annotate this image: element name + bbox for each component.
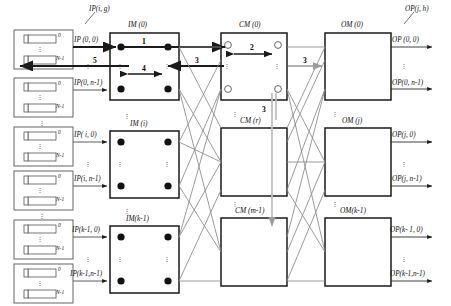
dots-out-b: ... bbox=[403, 160, 405, 167]
step-number-2: 2 bbox=[250, 44, 254, 52]
input-link-label-3: IP(i, n-1) bbox=[74, 176, 101, 183]
module-label-cm-0: CM (0) bbox=[239, 21, 261, 28]
dots-link-a: ... bbox=[87, 62, 89, 69]
output-link-label-5: OP(k-1,n-1) bbox=[390, 271, 425, 278]
callout-input-pointer: IP(i, g) bbox=[89, 6, 110, 13]
output-module-group bbox=[325, 33, 391, 286]
dots-ip-queue-c: ... bbox=[39, 142, 41, 149]
ip-box-label-n-e: N-1 bbox=[56, 246, 64, 251]
output-link-label-2: OP(j, 0) bbox=[392, 132, 416, 139]
ip-box-label-0-e: 0 bbox=[58, 223, 61, 228]
module-label-om-j: OM (j) bbox=[342, 117, 362, 124]
dots-imi-left: ... bbox=[119, 160, 121, 167]
module-label-cm-m1: CM (m-1) bbox=[235, 207, 264, 214]
dots-imk-left: ... bbox=[119, 255, 121, 262]
input-link-label-0: IP (0, 0) bbox=[74, 37, 98, 44]
module-label-om-0: OM (0) bbox=[341, 21, 363, 28]
step-number-3c: 3 bbox=[262, 106, 266, 114]
im-cm-interconnect bbox=[179, 47, 221, 281]
ip-box-label-n-b: N-1 bbox=[56, 104, 64, 109]
dots-cm-stage-2: ... bbox=[234, 200, 236, 207]
output-link-label-1: OP(0, n-1) bbox=[392, 80, 423, 87]
dots-imk-right: ... bbox=[166, 255, 168, 262]
dots-link-b: ... bbox=[87, 160, 89, 167]
ip-box-label-n-c: N-1 bbox=[56, 153, 64, 158]
dots-imi-right: ... bbox=[166, 160, 168, 167]
step-number-3a: 3 bbox=[195, 57, 199, 65]
dots-cm0-right: ... bbox=[276, 62, 278, 69]
dots-om-stage-2: ... bbox=[334, 200, 336, 207]
input-link-label-5: IP(k-1,n-1) bbox=[70, 271, 102, 278]
input-link-label-4: IP(k-1, 0) bbox=[72, 227, 100, 234]
dots-ip-queue-e: ... bbox=[39, 235, 41, 242]
dots-out-a: ... bbox=[403, 62, 405, 69]
ip-box-label-0-d: 0 bbox=[58, 174, 61, 179]
ip-box-label-n-d: N-1 bbox=[56, 197, 64, 202]
dots-cm0-left: ... bbox=[226, 62, 228, 69]
dots-out-c: ... bbox=[403, 255, 405, 262]
clos-network-diagram: 0 N-1 0 N-1 0 N-1 0 N-1 0 N-1 0 N-1 IM (… bbox=[0, 0, 451, 306]
ip-box-label-n-a: N-1 bbox=[56, 56, 64, 61]
ip-box-label-0-b: 0 bbox=[58, 81, 61, 86]
module-label-im-i: IM (i) bbox=[130, 120, 147, 127]
ip-box-label-n-f: N-1 bbox=[56, 290, 64, 295]
input-links bbox=[73, 90, 107, 281]
dots-im-stage-2: ... bbox=[126, 207, 128, 214]
input-link-label-1: IP(0, n-1) bbox=[74, 80, 102, 87]
dots-ip-group-2: ... bbox=[41, 212, 43, 219]
module-label-im-0: IM (0) bbox=[128, 21, 147, 28]
dots-cm-stage-1: ... bbox=[234, 110, 236, 117]
cm-om-interconnect bbox=[287, 47, 325, 281]
dots-om-stage-1: ... bbox=[334, 110, 336, 117]
ip-box-label-0-c: 0 bbox=[58, 130, 61, 135]
input-port-group bbox=[14, 30, 73, 303]
module-label-om-k1: OM(k-1) bbox=[340, 207, 366, 214]
ip-box-label-0-f: 0 bbox=[58, 267, 61, 272]
dots-ip-group-1: ... bbox=[41, 119, 43, 126]
input-port-queues bbox=[24, 35, 56, 298]
module-label-cm-r: CM (r) bbox=[240, 117, 261, 124]
dots-ip-queue-d: ... bbox=[39, 186, 41, 193]
step-number-4: 4 bbox=[142, 65, 146, 73]
dots-im0-right: ... bbox=[166, 62, 168, 69]
input-link-label-2: IP( i, 0) bbox=[74, 132, 97, 139]
dots-im-stage-1: ... bbox=[126, 112, 128, 119]
output-link-label-0: OP (0, 0) bbox=[392, 37, 419, 44]
step-number-1: 1 bbox=[142, 38, 146, 46]
ip-box-label-0-a: 0 bbox=[58, 33, 61, 38]
callout-output-pointer: OP(j, h) bbox=[405, 6, 429, 13]
step-number-3b: 3 bbox=[303, 57, 307, 65]
module-label-im-k1: IM(k-1) bbox=[126, 215, 149, 222]
dots-ip-queue-f: ... bbox=[39, 279, 41, 286]
step-number-5: 5 bbox=[93, 57, 97, 65]
dots-ip-queue-b: ... bbox=[39, 93, 41, 100]
output-link-label-4: OP(k- 1, 0) bbox=[390, 227, 423, 234]
output-link-label-3: OP(j, n-1) bbox=[392, 176, 422, 183]
diagram-canvas bbox=[0, 0, 451, 306]
dots-ip-queue-a: ... bbox=[39, 45, 41, 52]
dots-link-c: ... bbox=[87, 255, 89, 262]
dots-im0-left: ... bbox=[119, 62, 121, 69]
